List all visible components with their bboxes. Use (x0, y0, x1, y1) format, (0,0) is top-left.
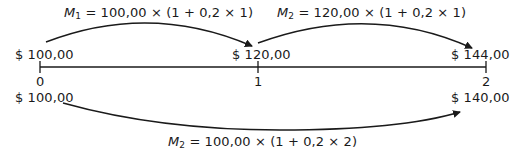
formula-expr: = 120,00 × (1 + 0,2 × 1) (294, 5, 466, 20)
value-top-2: $ 144,00 (451, 47, 510, 62)
tick-label-1: 1 (254, 74, 262, 89)
formula-m2-top: M2 = 120,00 × (1 + 0,2 × 1) (277, 5, 466, 24)
formula-m2-bottom: M2 = 100,00 × (1 + 0,2 × 2) (168, 134, 357, 153)
formula-expr: = 100,00 × (1 + 0,2 × 1) (81, 5, 253, 20)
tick-label-2: 2 (482, 74, 490, 89)
value-top-0: $ 100,00 (15, 47, 74, 62)
arrow-0-to-1 (46, 23, 252, 46)
arrow-0-to-2 (63, 103, 460, 130)
value-bottom-0: $ 100,00 (15, 90, 74, 105)
arrow-1-to-2 (258, 24, 472, 48)
tick-label-0: 0 (36, 74, 44, 89)
value-bottom-2: $ 140,00 (451, 90, 510, 105)
value-top-1: $ 120,00 (232, 47, 291, 62)
formula-m1: M1 = 100,00 × (1 + 0,2 × 1) (64, 5, 253, 24)
formula-expr: = 100,00 × (1 + 0,2 × 2) (185, 134, 357, 149)
formula-var: M (168, 134, 179, 149)
formula-var: M (277, 5, 288, 20)
formula-var: M (64, 5, 75, 20)
